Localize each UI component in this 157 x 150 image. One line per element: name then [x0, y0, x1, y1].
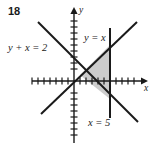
label-line-y-plus-x-equals-2: y + x = 2	[8, 42, 47, 53]
math-figure-18: 18	[0, 0, 157, 150]
coordinate-graph	[0, 0, 157, 150]
x-axis-label: x	[144, 83, 148, 93]
y-axis	[70, 7, 77, 143]
y-axis-label: y	[79, 5, 83, 15]
label-line-y-equals-x: y = x	[84, 32, 106, 43]
label-line-x-equals-5: x = 5	[88, 117, 110, 128]
